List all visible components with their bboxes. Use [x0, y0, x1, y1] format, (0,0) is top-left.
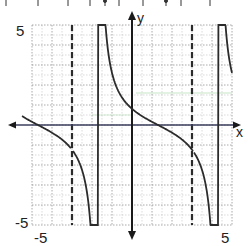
- y-min-label: -5: [15, 214, 28, 231]
- y-max-label: 5: [16, 22, 24, 39]
- x-axis-label: x: [236, 124, 243, 140]
- top-ruler-ticks: [6, 0, 210, 6]
- x-max-label: 5: [221, 229, 229, 246]
- tangent-graph: y x 5 -5 -5 5: [0, 0, 248, 246]
- x-min-label: -5: [34, 229, 47, 246]
- curve-branch-1: [22, 116, 71, 148]
- y-axis-label: y: [137, 10, 144, 26]
